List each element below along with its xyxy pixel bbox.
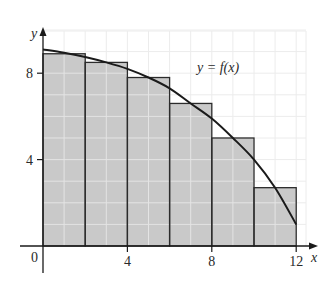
x-tick-label: 4 (124, 254, 131, 269)
x-axis-label: x (310, 250, 318, 265)
x-axis-arrow-icon (309, 243, 318, 250)
curve-label: y = f(x) (195, 60, 239, 76)
riemann-sum-chart: 481248 y x 0 y = f(x) (0, 0, 336, 285)
y-axis-label: y (29, 26, 38, 41)
y-tick-label: 8 (26, 66, 33, 81)
origin-label: 0 (31, 250, 38, 265)
x-tick-label: 12 (289, 254, 303, 269)
x-tick-label: 8 (208, 254, 215, 269)
y-tick-label: 4 (26, 153, 33, 168)
